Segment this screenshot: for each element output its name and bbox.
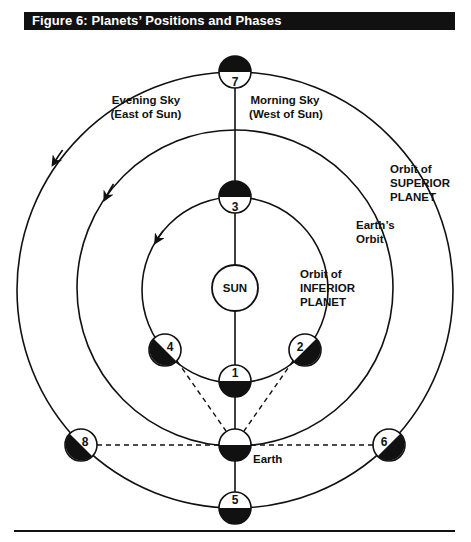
- svg-text:4: 4: [167, 340, 174, 354]
- svg-text:3: 3: [232, 200, 239, 214]
- svg-text:1: 1: [232, 366, 239, 380]
- svg-text:5: 5: [232, 493, 239, 507]
- svg-text:2: 2: [297, 340, 304, 354]
- inferior-orbit-label: Orbit of: [300, 268, 342, 280]
- superior-orbit-arrow-icon: [55, 150, 63, 162]
- sun: SUN: [212, 265, 258, 311]
- earth: Earth: [219, 429, 282, 465]
- planet-position-7: 7: [219, 56, 251, 89]
- planet-position-8: 8: [65, 429, 97, 461]
- svg-text:6: 6: [381, 435, 388, 449]
- planet-position-1: 1: [219, 365, 251, 397]
- earth-label: Earth: [253, 453, 282, 465]
- planet-position-2: 2: [289, 334, 321, 366]
- earth-orbit-arrow-icon: [106, 184, 114, 197]
- inferior-orbit-arrow-icon: [157, 231, 163, 240]
- earth-orbit-label: Earth’s: [356, 219, 395, 231]
- superior-orbit-label: Orbit of: [390, 163, 432, 175]
- planet-phases-diagram: SUN Earth 7 3 1 5 4 2: [0, 0, 471, 542]
- inferior-orbit-label-3: PLANET: [300, 296, 346, 308]
- evening-sky-sublabel: (East of Sun): [111, 108, 182, 120]
- superior-orbit-label-2: SUPERIOR: [390, 177, 451, 189]
- morning-sky-label: Morning Sky: [250, 94, 320, 106]
- planet-position-4: 4: [149, 334, 181, 366]
- superior-orbit-label-3: PLANET: [390, 191, 436, 203]
- morning-sky-sublabel: (West of Sun): [249, 108, 323, 120]
- svg-text:7: 7: [232, 75, 239, 89]
- earth-orbit-label-2: Orbit: [356, 233, 384, 245]
- evening-sky-label: Evening Sky: [112, 94, 181, 106]
- inferior-orbit-label-2: INFERIOR: [300, 282, 356, 294]
- planet-position-6: 6: [373, 429, 405, 461]
- planet-position-3: 3: [219, 181, 251, 214]
- svg-text:8: 8: [82, 435, 89, 449]
- planet-position-5: 5: [219, 492, 251, 524]
- sun-label: SUN: [223, 282, 247, 294]
